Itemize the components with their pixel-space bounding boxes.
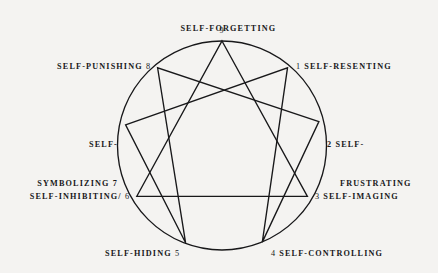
point-2-line1: 2 SELF- [327,138,412,151]
point-number-6: 6 [125,192,130,201]
point-number-9: 9 [101,24,343,37]
point-3-title: SELF-IMAGING [323,192,399,201]
point-number-8: 8 [146,62,151,71]
point-2-line2: FRUSTRATING [327,177,412,190]
point-label-3: 3 SELF-IMAGING [315,190,399,203]
point-8-title: SELF-PUNISHING [57,62,143,71]
point-label-5: SELF-HIDING 5 [0,247,180,260]
point-label-1: 1 SELF-RESENTING [296,60,392,73]
point-7-line1: SELF- [0,138,118,151]
enneagram-hexad [126,68,319,243]
point-5-title: SELF-HIDING [105,249,172,258]
point-label-4: 4 SELF-CONTROLLING [271,247,383,260]
point-1-title: SELF-RESENTING [304,62,392,71]
enneagram-triangle [137,41,308,196]
point-7-line2: SYMBOLIZING 7 [0,177,118,190]
point-label-7: SELF- SYMBOLIZING 7 [0,112,118,216]
enneagram-diagram: SELF-FORGETTING 9 1 SELF-RESENTING 2 SEL… [0,0,438,273]
point-number-5: 5 [175,249,180,258]
point-label-8: SELF-PUNISHING 8 [0,60,151,73]
point-4-title: SELF-CONTROLLING [279,249,383,258]
